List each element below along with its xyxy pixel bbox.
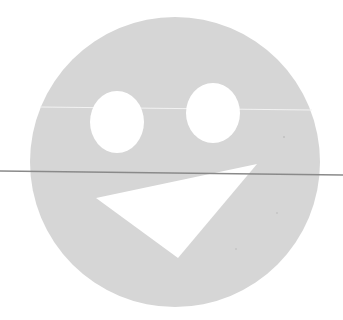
smiley-face-figure: [0, 0, 343, 320]
speck-3: [235, 248, 237, 250]
left-eye: [90, 91, 144, 153]
right-eye: [186, 83, 240, 143]
speck-1: [283, 136, 285, 138]
face-circle: [30, 17, 320, 307]
speck-2: [276, 212, 278, 214]
